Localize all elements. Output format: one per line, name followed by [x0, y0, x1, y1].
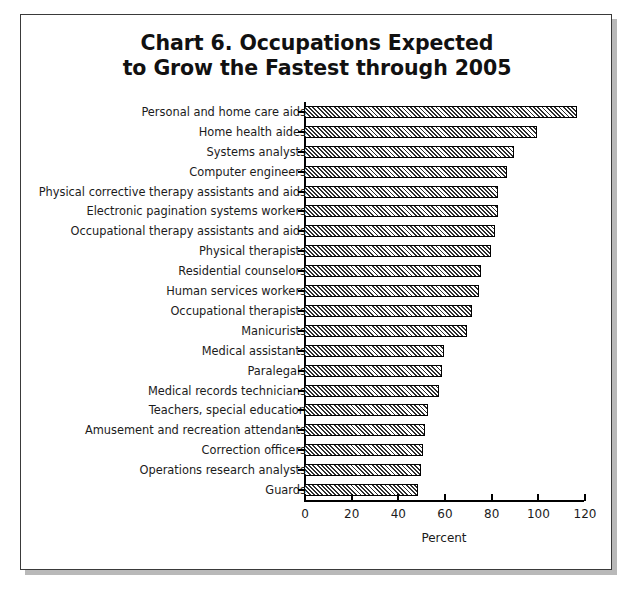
y-axis-tick [298, 429, 305, 431]
bar [304, 444, 423, 456]
x-axis-tick-label: 80 [472, 507, 512, 521]
category-label: Occupational therapy assistants and aids [71, 224, 306, 238]
bar-fill [304, 484, 418, 496]
x-axis-title: Percent [304, 531, 584, 545]
bar [304, 385, 439, 397]
bar [304, 205, 498, 217]
x-axis-tick-label: 0 [285, 507, 325, 521]
category-label: Medical records technicians [148, 384, 306, 398]
plot-area: Personal and home care aidsHome health a… [21, 15, 613, 571]
bar-fill [304, 126, 537, 138]
y-axis-tick [298, 230, 305, 232]
bar-fill [304, 305, 472, 317]
y-axis-tick [298, 191, 305, 193]
x-axis-tick-label: 120 [565, 507, 605, 521]
bar [304, 225, 495, 237]
bar [304, 404, 428, 416]
category-label: Human services workers [166, 284, 306, 298]
bar-fill [304, 146, 514, 158]
bar [304, 146, 514, 158]
y-axis-tick [298, 310, 305, 312]
bar-fill [304, 404, 428, 416]
category-label: Physical corrective therapy assistants a… [39, 185, 306, 199]
y-axis-tick [298, 111, 305, 113]
bar [304, 285, 479, 297]
bar [304, 484, 418, 496]
bar [304, 245, 491, 257]
bar-fill [304, 166, 507, 178]
x-axis-tick [397, 494, 399, 501]
bar [304, 186, 498, 198]
category-label: Correction officers [202, 443, 306, 457]
x-axis-tick [491, 494, 493, 501]
bar [304, 325, 467, 337]
category-label: Physical therapists [199, 244, 306, 258]
y-axis-tick [298, 469, 305, 471]
bar [304, 365, 442, 377]
category-label: Teachers, special education [149, 403, 306, 417]
category-label: Operations research analysts [139, 463, 306, 477]
x-axis-tick [537, 494, 539, 501]
x-axis-tick [584, 494, 586, 501]
bar-fill [304, 345, 444, 357]
chart-figure-card: Chart 6. Occupations Expected to Grow th… [20, 14, 612, 570]
bar [304, 265, 481, 277]
y-axis-tick [298, 210, 305, 212]
category-label: Home health aides [199, 125, 306, 139]
y-axis-tick [298, 350, 305, 352]
y-axis-tick [298, 131, 305, 133]
bar-fill [304, 444, 423, 456]
y-axis-tick [298, 151, 305, 153]
y-axis-tick [298, 250, 305, 252]
bar [304, 464, 421, 476]
category-label: Computer engineers [189, 165, 306, 179]
bar-fill [304, 245, 491, 257]
x-axis-tick [351, 494, 353, 501]
bar-fill [304, 285, 479, 297]
x-axis-tick [304, 494, 306, 501]
x-axis-tick-label: 20 [332, 507, 372, 521]
y-axis-tick [298, 449, 305, 451]
bar-fill [304, 225, 495, 237]
category-label: Amusement and recreation attendants [85, 423, 306, 437]
x-axis-tick-label: 60 [425, 507, 465, 521]
bar-fill [304, 385, 439, 397]
y-axis-tick [298, 370, 305, 372]
x-axis-tick-label: 100 [518, 507, 558, 521]
bar-fill [304, 106, 577, 118]
bar-fill [304, 265, 481, 277]
category-label: Electronic pagination systems workers [86, 204, 306, 218]
y-axis-line [304, 102, 306, 502]
category-label: Residential counselors [178, 264, 306, 278]
bar [304, 305, 472, 317]
y-axis-tick [298, 489, 305, 491]
bar [304, 424, 425, 436]
x-axis-tick [444, 494, 446, 501]
category-label: Personal and home care aids [141, 105, 306, 119]
category-label: Medical assistants [202, 344, 306, 358]
bar [304, 345, 444, 357]
y-axis-tick [298, 290, 305, 292]
category-label: Systems analysts [207, 145, 306, 159]
bar-fill [304, 186, 498, 198]
bar [304, 126, 537, 138]
y-axis-tick [298, 330, 305, 332]
y-axis-tick [298, 409, 305, 411]
bar [304, 106, 577, 118]
bar-fill [304, 365, 442, 377]
bar-fill [304, 424, 425, 436]
bar-fill [304, 205, 498, 217]
y-axis-tick [298, 171, 305, 173]
x-axis-tick-label: 40 [378, 507, 418, 521]
bar-fill [304, 464, 421, 476]
category-label: Occupational therapists [170, 304, 306, 318]
y-axis-tick [298, 270, 305, 272]
bar [304, 166, 507, 178]
bar-fill [304, 325, 467, 337]
category-label: Manicurists [241, 324, 306, 338]
y-axis-tick [298, 390, 305, 392]
